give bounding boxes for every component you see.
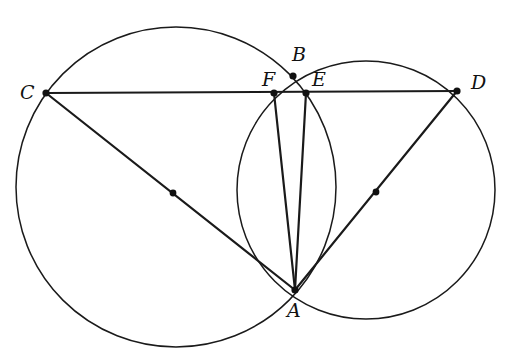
segment-CD [46, 91, 457, 93]
point-C-dot [42, 89, 49, 96]
segment-FA [274, 93, 295, 290]
point-A-dot [291, 286, 298, 293]
label-A: A [285, 299, 301, 321]
label-F: F [261, 68, 276, 90]
point-B-dot [289, 72, 296, 79]
right-center-dot [373, 189, 380, 196]
geometry-diagram: A B C D E F [0, 0, 512, 364]
left-center-dot [170, 190, 177, 197]
segment-EA [295, 93, 306, 290]
point-E-dot [302, 89, 309, 96]
point-F-dot [270, 89, 277, 96]
point-D-dot [453, 87, 460, 94]
label-C: C [20, 81, 35, 103]
label-B: B [291, 43, 306, 65]
label-E: E [311, 68, 326, 90]
label-D: D [470, 71, 486, 93]
